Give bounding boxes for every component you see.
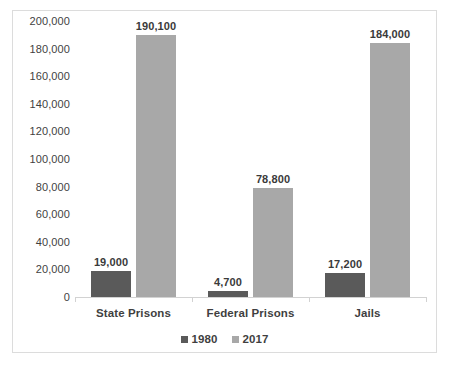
bar-value-label: 19,000 [79,256,143,268]
bar-2017-state-prisons [136,35,176,297]
x-axis-category-label: Jails [309,307,426,319]
bar-value-label: 190,100 [124,20,188,32]
bar-1980-federal-prisons [208,291,248,297]
x-axis-baseline [75,297,427,298]
bar-value-label: 184,000 [358,28,422,40]
x-axis-tick [426,298,427,302]
y-axis-tick-label: 40,000 [13,236,70,248]
y-axis-tick-label: 200,000 [13,15,70,27]
y-axis-tick-label: 100,000 [13,153,70,165]
x-axis-category-label: Federal Prisons [192,307,309,319]
bar-value-label: 17,200 [313,258,377,270]
legend-label: 1980 [192,333,218,345]
legend-swatch-icon [232,336,239,343]
plot-area: 19,000190,1004,70078,80017,200184,000 [75,21,426,297]
bar-value-label: 78,800 [241,173,305,185]
chart-legend: 19802017 [13,333,436,345]
y-axis-tick-label: 180,000 [13,43,70,55]
legend-item-1980[interactable]: 1980 [181,333,218,345]
x-axis-tick [309,298,310,302]
y-axis-tick-label: 0 [13,291,70,303]
chart-frame: 200,000180,000160,000140,000120,000100,0… [12,10,437,353]
legend-item-2017[interactable]: 2017 [232,333,269,345]
x-axis-tick [192,298,193,302]
x-axis-category-label: State Prisons [75,307,192,319]
y-axis-tick-label: 20,000 [13,263,70,275]
y-axis: 200,000180,000160,000140,000120,000100,0… [13,21,70,297]
bar-2017-jails [370,43,410,297]
y-axis-tick-label: 60,000 [13,208,70,220]
legend-swatch-icon [181,336,188,343]
bar-2017-federal-prisons [253,188,293,297]
bar-1980-state-prisons [91,271,131,297]
y-axis-tick-label: 120,000 [13,125,70,137]
y-axis-tick-label: 80,000 [13,181,70,193]
legend-label: 2017 [243,333,269,345]
y-axis-tick-label: 160,000 [13,70,70,82]
bar-value-label: 4,700 [196,276,260,288]
x-axis-tick [75,298,76,302]
y-axis-tick-label: 140,000 [13,98,70,110]
bar-1980-jails [325,273,365,297]
